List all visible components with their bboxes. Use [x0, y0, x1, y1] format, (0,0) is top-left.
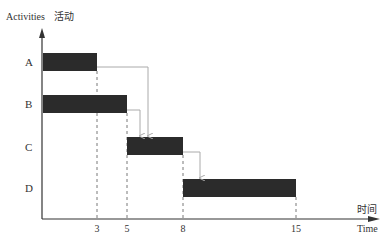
y-axis-arrow-icon: [39, 28, 45, 38]
y-axis-label-cn: 活动: [54, 11, 74, 22]
activity-label-c: C: [25, 141, 32, 153]
activity-label-d: D: [25, 182, 33, 194]
x-axis-label: Time: [357, 223, 378, 234]
x-tick-8: 8: [181, 223, 186, 234]
activity-label-a: A: [25, 56, 33, 68]
x-axis-label-cn: 时间: [357, 203, 377, 215]
bars: [43, 53, 296, 197]
arrow-b-to-c: [127, 110, 140, 136]
x-axis-arrow-icon: [368, 216, 380, 222]
bar-b: [43, 95, 127, 113]
arrow-c-to-d: [183, 152, 200, 178]
bar-d: [183, 179, 296, 197]
activity-label-b: B: [25, 98, 32, 110]
x-tick-3: 3: [95, 223, 100, 234]
bar-a: [43, 53, 97, 71]
y-axis-label: Activities: [6, 11, 45, 22]
dependency-arrows: [97, 67, 200, 178]
x-tick-5: 5: [125, 223, 130, 234]
gantt-diagram: Activities 活动 A B C D 3 5 8 15 时间 Time: [0, 0, 387, 249]
x-tick-15: 15: [291, 223, 301, 234]
bar-c: [127, 137, 183, 155]
